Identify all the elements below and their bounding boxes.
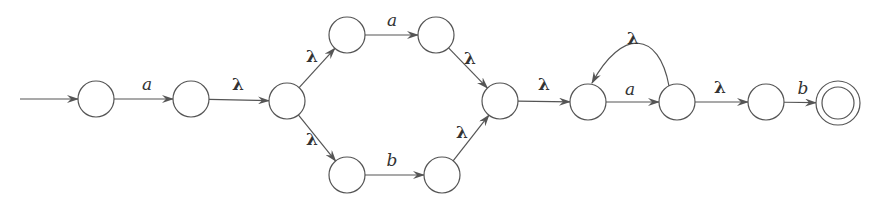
transitions: [20, 35, 816, 175]
transition-label: λ: [464, 48, 476, 68]
state: [482, 83, 518, 119]
state-circle: [424, 157, 460, 193]
state-circle: [173, 81, 209, 117]
state-circle: [748, 84, 784, 120]
transition-label: b: [798, 78, 809, 98]
state: [78, 81, 114, 117]
transition-label: λ: [306, 129, 318, 149]
transition-q7-q8: [518, 101, 570, 102]
nfa-diagram: aλλλabλλλaλλb: [0, 0, 882, 206]
transition-label: λ: [306, 46, 318, 66]
state-circle: [570, 84, 606, 120]
state: [173, 81, 209, 117]
state-circle: [659, 84, 695, 120]
transition-label: λ: [232, 74, 244, 94]
state-circle: [418, 17, 454, 53]
state: [570, 84, 606, 120]
state-circle: [269, 83, 305, 119]
transition-label: λ: [714, 77, 726, 97]
state-circle: [329, 157, 365, 193]
transition-label: a: [387, 10, 397, 30]
transition-label: a: [625, 79, 635, 99]
accepting-state: [816, 81, 860, 125]
state: [748, 84, 784, 120]
state: [269, 83, 305, 119]
state: [424, 157, 460, 193]
transition-label: λ: [538, 74, 550, 94]
state-circle: [482, 83, 518, 119]
state: [659, 84, 695, 120]
state-circle: [78, 81, 114, 117]
transition-label: a: [142, 74, 152, 94]
state: [329, 17, 365, 53]
transition-labels: aλλλabλλλaλλb: [142, 10, 809, 170]
transition-label: b: [387, 150, 398, 170]
transition-q1-q2: [209, 99, 269, 100]
transition-label: λ: [627, 28, 639, 48]
states: [78, 17, 860, 193]
state: [418, 17, 454, 53]
state: [329, 157, 365, 193]
transition-label: λ: [456, 122, 468, 142]
state-circle: [329, 17, 365, 53]
state-inner-circle: [822, 87, 854, 119]
